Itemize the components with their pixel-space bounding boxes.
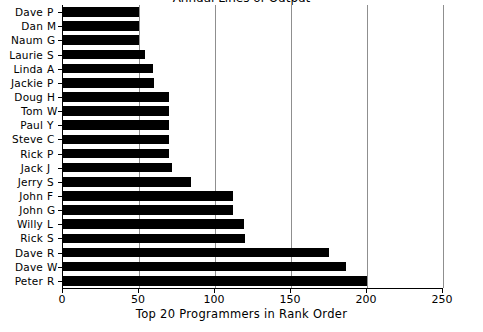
category-initial: L <box>47 218 58 230</box>
category-initial: Y <box>47 119 58 131</box>
category-label: DaveP <box>0 5 58 19</box>
category-first-name: John <box>19 190 43 202</box>
category-label: JackieP <box>0 76 58 90</box>
bar <box>63 106 169 116</box>
bar <box>63 177 191 187</box>
bar <box>63 120 169 130</box>
category-initial: G <box>47 204 58 216</box>
category-initial: S <box>47 49 58 61</box>
bar-row <box>63 189 443 203</box>
bar-row <box>63 76 443 90</box>
bar <box>63 191 233 201</box>
category-label: JerryS <box>0 175 58 189</box>
category-label: SteveC <box>0 132 58 146</box>
category-initial: A <box>47 63 58 75</box>
category-first-name: Laurie <box>9 49 43 61</box>
category-label: PaulY <box>0 118 58 132</box>
bar-row <box>63 231 443 245</box>
category-initial: W <box>47 261 58 273</box>
bar-row <box>63 33 443 47</box>
category-first-name: Dave <box>15 261 43 273</box>
x-tick-label: 250 <box>432 293 453 306</box>
category-first-name: Tom <box>21 105 43 117</box>
category-first-name: John <box>19 204 43 216</box>
bar <box>63 205 233 215</box>
category-label: DaveW <box>0 260 58 274</box>
category-initial: M <box>47 20 58 32</box>
bar <box>63 64 153 74</box>
category-label: JackJ <box>0 161 58 175</box>
bar <box>63 149 169 159</box>
category-initial: J <box>47 162 58 174</box>
category-first-name: Jerry <box>18 176 43 188</box>
bar-row <box>63 161 443 175</box>
category-label: JohnG <box>0 203 58 217</box>
bar <box>63 92 169 102</box>
bar <box>63 234 245 244</box>
bar-row <box>63 175 443 189</box>
category-initial: G <box>47 34 58 46</box>
bar <box>63 135 169 145</box>
category-first-name: Dave <box>15 6 43 18</box>
bar-row <box>63 203 443 217</box>
category-first-name: Willy <box>17 218 43 230</box>
x-tick-label: 150 <box>280 293 301 306</box>
category-initial: W <box>47 105 58 117</box>
bar-row <box>63 118 443 132</box>
bar-row <box>63 274 443 288</box>
category-initial: R <box>47 247 58 259</box>
x-tick-label: 50 <box>131 293 145 306</box>
bar <box>63 163 172 173</box>
category-label: TomW <box>0 104 58 118</box>
category-first-name: Doug <box>14 91 43 103</box>
category-first-name: Jackie <box>11 77 43 89</box>
bar <box>63 21 139 31</box>
bar-row <box>63 104 443 118</box>
category-first-name: Naum <box>11 34 43 46</box>
category-first-name: Dave <box>15 247 43 259</box>
bar-series <box>63 5 443 288</box>
category-label: JohnF <box>0 189 58 203</box>
category-initial: H <box>47 91 58 103</box>
category-initial: S <box>47 176 58 188</box>
x-axis-label: Top 20 Programmers in Rank Order <box>0 307 483 321</box>
bar <box>63 35 139 45</box>
category-first-name: Rick <box>20 148 43 160</box>
category-label: DanM <box>0 19 58 33</box>
bar-row <box>63 260 443 274</box>
bar <box>63 219 244 229</box>
category-label: PeterR <box>0 274 58 288</box>
plot-area <box>62 5 443 289</box>
category-first-name: Linda <box>13 63 43 75</box>
category-axis-labels: DavePDanMNaumGLaurieSLindaAJackiePDougHT… <box>0 5 58 288</box>
bar-row <box>63 62 443 76</box>
category-label: LaurieS <box>0 47 58 61</box>
bar <box>63 78 154 88</box>
category-first-name: Steve <box>12 133 43 145</box>
bar-row <box>63 217 443 231</box>
bar-row <box>63 47 443 61</box>
bar <box>63 50 145 60</box>
bar-row <box>63 19 443 33</box>
category-label: DougH <box>0 90 58 104</box>
bar <box>63 276 367 286</box>
category-initial: R <box>47 275 58 287</box>
category-initial: S <box>47 232 58 244</box>
category-first-name: Dan <box>21 20 43 32</box>
x-tick-label: 100 <box>204 293 225 306</box>
category-initial: P <box>47 148 58 160</box>
category-label: WillyL <box>0 217 58 231</box>
category-label: RickP <box>0 147 58 161</box>
category-first-name: Peter <box>15 275 43 287</box>
bar <box>63 248 329 258</box>
category-label: RickS <box>0 231 58 245</box>
bar-chart: Annual Lines of Output DavePDanMNaumGLau… <box>0 0 483 332</box>
category-initial: P <box>47 77 58 89</box>
category-first-name: Paul <box>20 119 43 131</box>
bar-row <box>63 90 443 104</box>
bar <box>63 7 139 17</box>
category-label: NaumG <box>0 33 58 47</box>
category-initial: P <box>47 6 58 18</box>
x-tick-label: 0 <box>59 293 66 306</box>
x-axis-ticks: 050100150200250 <box>0 289 483 305</box>
